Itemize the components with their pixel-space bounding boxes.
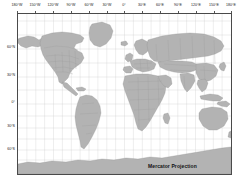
longitude-label: 30°E — [138, 4, 146, 8]
longitude-label: 120°W — [48, 4, 59, 8]
longitude-label: 90°W — [67, 4, 76, 8]
longitude-label: 180°E — [226, 4, 236, 8]
longitude-label: 180°W — [12, 4, 23, 8]
projection-caption: Mercator Projection — [148, 164, 197, 169]
longitude-label: 90°E — [174, 4, 182, 8]
longitude-label: 150°E — [209, 4, 219, 8]
longitude-label: 60°W — [85, 4, 94, 8]
latitude-label: 30°S — [1, 125, 15, 129]
world-map-figure: 180°W150°W120°W90°W60°W30°W0°30°E60°E90°… — [0, 0, 240, 191]
longitude-label: 120°E — [191, 4, 201, 8]
world-map-svg: .land { fill: #b3b3b3; stroke: #8f8f8f; … — [18, 14, 231, 174]
latitude-label: 0° — [1, 101, 15, 105]
longitude-label: 150°W — [30, 4, 41, 8]
longitude-label: 30°W — [103, 4, 112, 8]
map-plot-area[interactable]: .land { fill: #b3b3b3; stroke: #8f8f8f; … — [17, 13, 232, 175]
latitude-label: 60°N — [1, 46, 15, 50]
longitude-label: 60°E — [156, 4, 164, 8]
latitude-label: 60°S — [1, 148, 15, 152]
latitude-label: 30°N — [1, 74, 15, 78]
longitude-label: 0° — [122, 4, 125, 8]
